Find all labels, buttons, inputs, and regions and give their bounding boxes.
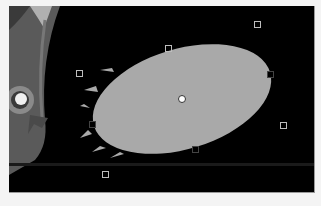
pivot-point[interactable]	[178, 95, 186, 103]
resize-handle-top[interactable]	[165, 45, 172, 52]
resize-handle-bottom[interactable]	[192, 146, 199, 153]
scan-artifact	[9, 163, 314, 166]
rotate-handle-bottom-right[interactable]	[280, 122, 287, 129]
character-icon	[9, 6, 60, 175]
canvas-artwork	[9, 6, 314, 192]
rotate-handle-bottom-left[interactable]	[102, 171, 109, 178]
resize-handle-right[interactable]	[267, 71, 274, 78]
resize-handle-left[interactable]	[89, 121, 96, 128]
rotate-handle-top-left[interactable]	[76, 70, 83, 77]
rotate-handle-top-right[interactable]	[254, 21, 261, 28]
editor-canvas[interactable]	[9, 6, 315, 193]
